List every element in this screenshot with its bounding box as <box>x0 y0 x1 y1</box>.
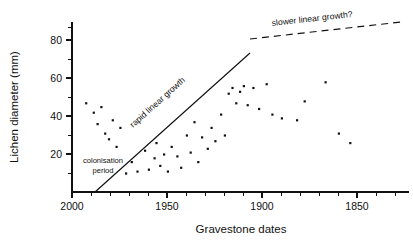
data-point <box>97 123 99 125</box>
data-point <box>155 142 157 144</box>
data-point <box>154 157 156 159</box>
x-tick-label-1900: 1900 <box>250 200 274 212</box>
data-point <box>296 119 298 121</box>
data-point <box>171 146 173 148</box>
data-point <box>167 171 169 173</box>
annotation-rapid-linear-growth: rapid linear growth <box>128 75 187 130</box>
data-point <box>220 114 222 116</box>
y-tick-label-40: 40 <box>50 110 62 122</box>
data-point <box>349 142 351 144</box>
data-point <box>119 127 121 129</box>
data-point <box>136 171 138 173</box>
data-point <box>176 155 178 157</box>
data-point <box>104 133 106 135</box>
annotation-colonisation-line2: period <box>92 166 113 175</box>
data-point <box>224 134 226 136</box>
data-point <box>125 172 127 174</box>
data-point <box>211 127 213 129</box>
y-axis-ticks: 20 40 60 80 <box>50 27 72 173</box>
annotation-colonisation-line1: colonisation <box>83 156 123 165</box>
y-tick-label-60: 60 <box>50 72 62 84</box>
data-point <box>100 106 102 108</box>
trend-line-rapid-growth <box>95 53 250 192</box>
chart-canvas: 20 40 60 80 2000 1950 1900 1850 <box>0 0 413 241</box>
data-point <box>281 117 283 119</box>
data-point <box>239 91 241 93</box>
x-tick-label-2000: 2000 <box>60 200 84 212</box>
data-point <box>193 121 195 123</box>
data-point <box>207 148 209 150</box>
data-point <box>186 134 188 136</box>
data-point <box>231 87 233 89</box>
lichen-growth-chart: 20 40 60 80 2000 1950 1900 1850 <box>0 0 413 241</box>
x-axis-title: Gravestone dates <box>196 223 287 235</box>
data-point <box>304 100 306 102</box>
data-point <box>190 152 192 154</box>
data-point <box>116 146 118 148</box>
data-point <box>159 165 161 167</box>
data-point <box>338 133 340 135</box>
data-point <box>235 102 237 104</box>
data-point <box>144 150 146 152</box>
data-point <box>197 161 199 163</box>
data-point <box>252 87 254 89</box>
data-point <box>214 140 216 142</box>
y-tick-label-80: 80 <box>50 34 62 46</box>
data-point <box>131 161 133 163</box>
data-point <box>228 93 230 95</box>
data-point <box>93 112 95 114</box>
data-point <box>108 138 110 140</box>
data-point <box>325 81 327 83</box>
y-tick-label-20: 20 <box>50 148 62 160</box>
x-tick-label-1950: 1950 <box>155 200 179 212</box>
annotation-slower-linear-growth: slower linear growth? <box>271 9 353 28</box>
data-point <box>112 119 114 121</box>
y-axis-title: Lichen diameter (mm) <box>8 51 20 163</box>
data-point <box>85 102 87 104</box>
scatter-points <box>85 81 351 174</box>
data-point <box>148 169 150 171</box>
data-point <box>247 104 249 106</box>
x-tick-label-1850: 1850 <box>345 200 369 212</box>
data-point <box>266 83 268 85</box>
data-point <box>180 167 182 169</box>
data-point <box>201 136 203 138</box>
data-point <box>271 114 273 116</box>
data-point <box>163 153 165 155</box>
data-point <box>258 108 260 110</box>
x-axis-ticks: 2000 1950 1900 1850 <box>60 192 395 212</box>
data-point <box>243 85 245 87</box>
